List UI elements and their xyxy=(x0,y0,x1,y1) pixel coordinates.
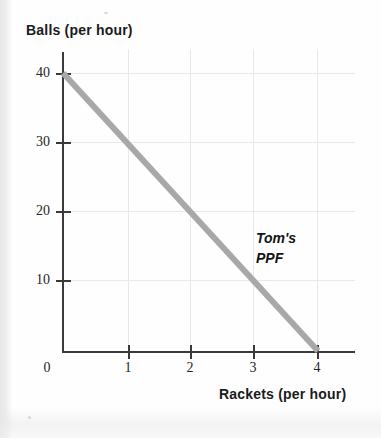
ppf-curve xyxy=(0,0,381,438)
ppf-figure: Balls (per hour) Rackets (per hour) 40 3… xyxy=(0,0,381,438)
ppf-label-line1: Tom's xyxy=(256,228,296,248)
ppf-line-segment xyxy=(63,73,318,351)
plot-area: 40 30 20 10 0 1 2 3 4 Tom's PPF xyxy=(0,0,381,438)
ppf-curve-label: Tom's PPF xyxy=(256,228,296,268)
ppf-label-line2: PPF xyxy=(256,248,296,268)
